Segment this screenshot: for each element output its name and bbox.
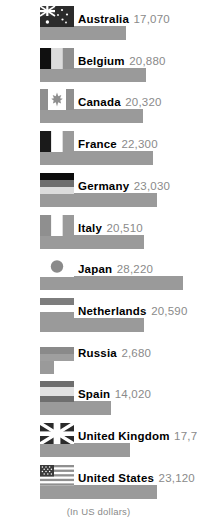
chart-row: Italy 20,510: [0, 215, 197, 257]
bar-label: Belgium 20,880: [78, 53, 166, 68]
country-value: 2,680: [121, 347, 151, 359]
flag-united-states-icon: [40, 465, 74, 486]
bar-label: Spain 14,020: [78, 386, 151, 401]
country-value: 23,030: [134, 180, 170, 192]
country-name: Germany: [78, 180, 129, 192]
country-name: Belgium: [78, 55, 125, 67]
country-value: 20,510: [106, 222, 142, 234]
flag-belgium-icon: [40, 48, 74, 69]
value-bar: [40, 26, 126, 40]
country-name: Italy: [78, 222, 102, 234]
country-name: Spain: [78, 388, 110, 400]
value-bar: [40, 485, 157, 499]
chart-row: Australia 17,070: [0, 6, 197, 48]
bar-label: Canada 20,320: [78, 94, 162, 109]
flag-canada-icon: [40, 89, 74, 110]
chart-footnote: (In US dollars): [0, 506, 197, 517]
bar-label: Netherlands 20,590: [78, 303, 188, 318]
value-bar: [40, 193, 157, 207]
bar-label: United States 23,120: [78, 470, 195, 485]
country-value: 17,070: [133, 13, 169, 25]
country-name: France: [78, 138, 117, 150]
value-bar: [40, 443, 130, 457]
country-value: 20,320: [125, 96, 161, 108]
chart-row: France 22,300: [0, 131, 197, 173]
value-bar: [40, 109, 143, 123]
flag-australia-icon: [40, 6, 74, 27]
value-bar: [40, 401, 111, 415]
country-value: 23,120: [159, 472, 195, 484]
bar-label: Germany 23,030: [78, 178, 170, 193]
chart-row: Netherlands 20,590: [0, 298, 197, 340]
country-value: 17,760: [174, 430, 197, 442]
country-name: Canada: [78, 96, 121, 108]
country-name: United Kingdom: [78, 430, 170, 442]
country-name: Japan: [78, 263, 112, 275]
value-bar: [40, 235, 144, 249]
flag-germany-icon: [40, 173, 74, 194]
bar-label: Japan 28,220: [78, 261, 153, 276]
chart-row: Belgium 20,880: [0, 48, 197, 90]
bar-label: Russia 2,680: [78, 345, 151, 360]
country-name: Australia: [78, 13, 129, 25]
flag-japan-icon: [40, 256, 74, 277]
flag-italy-icon: [40, 215, 74, 236]
value-bar: [40, 276, 183, 290]
country-name: Netherlands: [78, 305, 147, 317]
country-value: 20,590: [151, 305, 187, 317]
flag-united-kingdom-icon: [40, 423, 74, 444]
value-bar: [40, 360, 54, 374]
country-value: 22,300: [121, 138, 157, 150]
flag-france-icon: [40, 131, 74, 152]
country-name: United States: [78, 472, 154, 484]
chart-row: United Kingdom 17,760: [0, 423, 197, 465]
gdp-per-capita-bar-chart: Australia 17,070 Belgium 20,880 Canada 2…: [0, 0, 197, 523]
bar-label: United Kingdom 17,760: [78, 428, 197, 443]
country-name: Russia: [78, 347, 117, 359]
flag-netherlands-icon: [40, 298, 74, 319]
chart-row: Canada 20,320: [0, 89, 197, 131]
country-value: 28,220: [117, 263, 153, 275]
chart-row: Germany 23,030: [0, 173, 197, 215]
bar-label: Italy 20,510: [78, 220, 143, 235]
chart-row: Japan 28,220: [0, 256, 197, 298]
value-bar: [40, 151, 153, 165]
flag-spain-icon: [40, 381, 74, 402]
bar-label: France 22,300: [78, 136, 158, 151]
value-bar: [40, 68, 146, 82]
chart-row: Spain 14,020: [0, 381, 197, 423]
bar-label: Australia 17,070: [78, 11, 170, 26]
chart-row: Russia 2,680: [0, 340, 197, 382]
country-value: 14,020: [115, 388, 151, 400]
flag-russia-icon: [40, 340, 74, 361]
country-value: 20,880: [129, 55, 165, 67]
chart-row: United States 23,120: [0, 465, 197, 507]
value-bar: [40, 318, 144, 332]
